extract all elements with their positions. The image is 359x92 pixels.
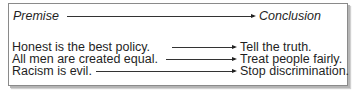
arrowhead-icon — [232, 57, 237, 61]
arrowhead-icon — [232, 45, 237, 49]
premise-header: Premise — [13, 9, 59, 23]
row-arrow-2 — [166, 59, 235, 60]
premise-text-3: Racism is evil. — [12, 64, 92, 78]
conclusion-header: Conclusion — [259, 9, 321, 23]
row-arrow-3 — [96, 71, 235, 72]
row-arrow-1 — [172, 47, 235, 48]
conclusion-text-3: Stop discrimination. — [240, 64, 349, 78]
arrowhead-icon — [251, 14, 256, 18]
header-arrow — [67, 16, 254, 17]
arrowhead-icon — [232, 69, 237, 73]
